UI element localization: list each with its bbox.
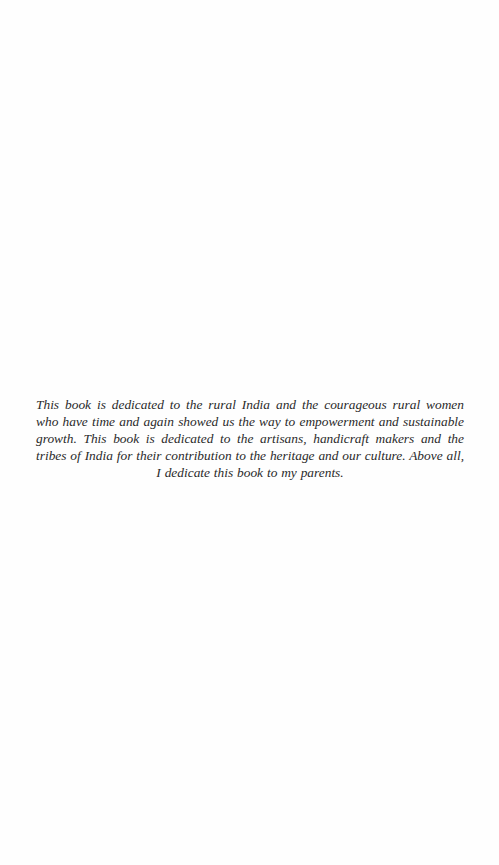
book-page: This book is dedicated to the rural Indi… [0, 0, 499, 865]
dedication-paragraph: This book is dedicated to the rural Indi… [36, 396, 464, 481]
